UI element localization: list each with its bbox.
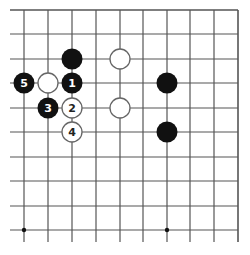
- board-grid: [10, 10, 238, 242]
- move-number-label: 1: [68, 77, 76, 90]
- black-stone: [157, 73, 178, 94]
- star-point: [165, 228, 169, 232]
- black-stone-circle: [62, 49, 83, 70]
- move-number-label: 5: [20, 77, 28, 90]
- go-board: 51324: [0, 0, 250, 255]
- black-stone: [157, 122, 178, 143]
- black-stone-1: 1: [62, 73, 83, 94]
- star-point: [22, 228, 26, 232]
- black-stone-circle: [157, 122, 178, 143]
- move-number-label: 3: [44, 102, 52, 115]
- black-stone-5: 5: [14, 73, 35, 94]
- white-stone: [110, 49, 130, 69]
- white-stone-circle: [110, 49, 130, 69]
- black-stone-3: 3: [38, 98, 59, 119]
- white-stone-4: 4: [62, 122, 82, 142]
- white-stone-circle: [110, 98, 130, 118]
- white-stone-2: 2: [62, 98, 82, 118]
- black-stone-circle: [157, 73, 178, 94]
- white-stone-circle: [38, 73, 58, 93]
- black-stone: [62, 49, 83, 70]
- move-number-label: 4: [68, 126, 76, 139]
- move-number-label: 2: [68, 102, 76, 115]
- white-stone: [110, 98, 130, 118]
- white-stone: [38, 73, 58, 93]
